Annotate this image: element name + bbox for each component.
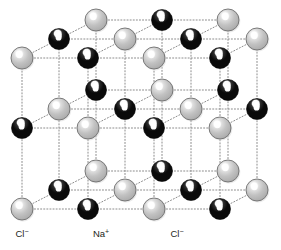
- sphere-highlight: [253, 102, 259, 110]
- sphere-body: [11, 47, 33, 69]
- sphere-body: [217, 9, 239, 31]
- sphere-body: [151, 79, 173, 101]
- sphere-highlight: [216, 51, 222, 59]
- sphere-highlight: [90, 13, 97, 20]
- sphere-highlight: [216, 202, 222, 210]
- sphere-highlight: [84, 51, 90, 59]
- sphere-highlight: [16, 202, 23, 209]
- sphere-highlight: [222, 13, 229, 20]
- sphere-highlight: [214, 121, 221, 128]
- sphere-highlight: [55, 32, 61, 40]
- sphere-highlight: [251, 183, 258, 190]
- sphere-highlight: [148, 51, 155, 58]
- figure-background: [0, 0, 281, 250]
- sphere-highlight: [92, 83, 98, 91]
- ion-charge-superscript: −: [179, 228, 183, 235]
- ion-charge-superscript: −: [24, 228, 28, 235]
- sphere-highlight: [90, 164, 97, 171]
- sphere-body: [217, 160, 239, 182]
- sphere-body: [114, 28, 136, 50]
- sphere-body: [180, 98, 202, 120]
- sphere-highlight: [187, 32, 193, 40]
- sphere-highlight: [119, 32, 126, 39]
- sphere-body: [143, 47, 165, 69]
- ion-charge-superscript: +: [105, 228, 109, 235]
- sphere-highlight: [121, 102, 127, 110]
- sphere-highlight: [185, 102, 192, 109]
- sphere-highlight: [222, 164, 229, 171]
- sphere-highlight: [84, 202, 90, 210]
- sphere-body: [209, 117, 231, 139]
- nacl-lattice-figure: Cl−Na+Cl−: [0, 0, 281, 250]
- sphere-highlight: [119, 183, 126, 190]
- sphere-highlight: [18, 121, 24, 129]
- sphere-highlight: [251, 32, 258, 39]
- sphere-body: [85, 9, 107, 31]
- sphere-body: [48, 98, 70, 120]
- sphere-body: [143, 198, 165, 220]
- sphere-highlight: [158, 164, 164, 172]
- sphere-body: [77, 117, 99, 139]
- sphere-highlight: [82, 121, 89, 128]
- sphere-body: [11, 198, 33, 220]
- sphere-highlight: [158, 13, 164, 21]
- sphere-highlight: [224, 83, 230, 91]
- sphere-highlight: [55, 183, 61, 191]
- sphere-body: [246, 28, 268, 50]
- sphere-highlight: [150, 121, 156, 129]
- sphere-highlight: [53, 102, 60, 109]
- sphere-body: [114, 179, 136, 201]
- sphere-highlight: [156, 83, 163, 90]
- sphere-highlight: [16, 51, 23, 58]
- sphere-highlight: [187, 183, 193, 191]
- sphere-body: [85, 160, 107, 182]
- sphere-body: [246, 179, 268, 201]
- sphere-highlight: [148, 202, 155, 209]
